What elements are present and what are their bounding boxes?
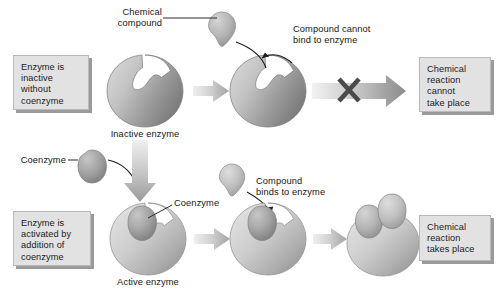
callout-enzyme-inactive: Enzyme is inactive without coenzyme [13,55,89,110]
coenzyme-free-shape [78,150,107,183]
callout-reaction-takes-place: Chemical reaction takes place [419,215,491,261]
coenzyme-path-curve [108,160,136,183]
chemical-compound-shape-top [209,12,236,46]
arrow-bottom-first [194,228,230,250]
chemical-compound-shape-bottom [219,164,244,196]
inactive-enzyme-with-compound-blocked [230,55,306,127]
active-enzyme-shape [110,203,186,275]
inactive-enzyme-shape [107,55,183,127]
arrow-bottom-second [313,228,347,250]
caption-active-enzyme: Active enzyme [98,277,198,288]
bound-coenzyme-blob [128,206,157,241]
label-compound-binds: Compound binds to enzyme [256,176,366,199]
enzyme-substrate-complex-shape [347,194,419,276]
label-coenzyme-bound: Coenzyme [174,198,236,209]
callout-reaction-cannot-take-place: Chemical reaction cannot take place [419,57,491,112]
label-coenzyme-free: Coenzyme [8,155,66,166]
active-enzyme-binding-shape [230,203,306,275]
arrow-top-first [193,80,229,102]
callout-enzyme-activated: Enzyme is activated by addition of coenz… [13,211,91,266]
caption-inactive-enzyme: Inactive enzyme [95,129,195,140]
label-chemical-compound: Chemical compound [88,7,162,30]
complex-compound-blob [378,194,406,229]
enzyme-coenzyme-diagram: Enzyme is inactive without coenzyme Chem… [0,0,504,289]
bound-coenzyme-blob-middle [248,206,277,241]
label-compound-cannot-bind: Compound cannot bind to enzyme [293,24,413,47]
